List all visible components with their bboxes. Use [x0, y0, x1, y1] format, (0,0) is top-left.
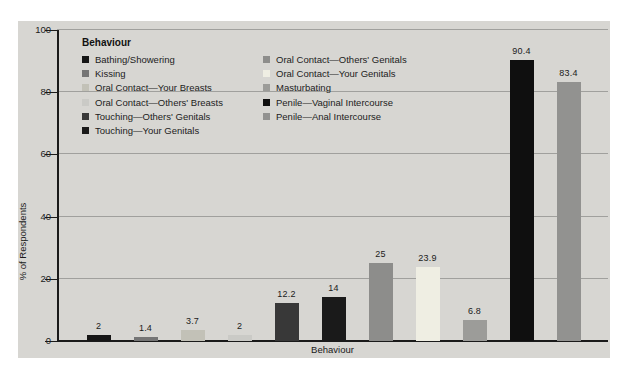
legend-swatch-icon: [82, 70, 89, 77]
legend-item: Penile—Vaginal Intercourse: [263, 95, 407, 109]
bar-value-label: 23.9: [406, 253, 450, 263]
legend-item-label: Masturbating: [276, 82, 331, 93]
legend-item-label: Kissing: [95, 68, 126, 79]
bar-7: 25: [369, 263, 393, 341]
legend-item: Penile—Anal Intercourse: [263, 109, 407, 123]
bar-8: 23.9: [416, 267, 440, 341]
bar-9: 6.8: [463, 320, 487, 341]
legend-item: Bathing/Showering: [82, 52, 223, 66]
legend-item: Masturbating: [263, 81, 407, 95]
legend-item-label: Penile—Anal Intercourse: [276, 111, 381, 122]
legend-swatch-icon: [82, 113, 89, 120]
legend-swatch-icon: [263, 70, 270, 77]
legend-item: Touching—Others' Genitals: [82, 109, 223, 123]
legend-item-label: Touching—Others' Genitals: [95, 111, 210, 122]
legend-item-label: Oral Contact—Others' Breasts: [95, 97, 223, 108]
plot-area: Behaviour Bathing/ShoweringKissingOral C…: [57, 30, 608, 341]
bar-2: 1.4: [134, 337, 158, 341]
bar-value-label: 90.4: [500, 46, 544, 56]
bar-6: 14: [322, 297, 346, 341]
legend-swatch-icon: [82, 56, 89, 63]
bar-value-label: 12.2: [265, 289, 309, 299]
bar-11: 83.4: [557, 82, 581, 341]
bar-value-label: 1.4: [124, 323, 168, 333]
legend-item-label: Bathing/Showering: [95, 54, 175, 65]
legend-title: Behaviour: [82, 37, 407, 48]
bar-value-label: 3.7: [171, 316, 215, 326]
bar-value-label: 25: [359, 249, 403, 259]
legend-column-right: Oral Contact—Others' GenitalsOral Contac…: [263, 52, 407, 138]
legend-swatch-icon: [263, 99, 270, 106]
legend-item: Oral Contact—Others' Genitals: [263, 52, 407, 66]
legend-item-label: Penile—Vaginal Intercourse: [276, 97, 393, 108]
y-tick-mark-60: [45, 154, 57, 155]
legend-item-label: Oral Contact—Your Genitals: [276, 68, 396, 79]
legend-swatch-icon: [263, 56, 270, 63]
legend-item: Touching—Your Genitals: [82, 123, 223, 137]
legend-item: Oral Contact—Your Genitals: [263, 66, 407, 80]
y-axis-line: [57, 30, 59, 341]
bar-value-label: 2: [77, 321, 121, 331]
legend-item-label: Oral Contact—Your Breasts: [95, 82, 212, 93]
bar-value-label: 2: [218, 321, 262, 331]
gridline-100: [57, 29, 608, 30]
legend-item-label: Oral Contact—Others' Genitals: [276, 54, 407, 65]
legend-item: Oral Contact—Others' Breasts: [82, 95, 223, 109]
y-tick-mark-80: [45, 92, 57, 93]
legend-swatch-icon: [263, 113, 270, 120]
legend-swatch-icon: [82, 127, 89, 134]
bar-4: 2: [228, 335, 252, 341]
legend-item: Kissing: [82, 66, 223, 80]
y-tick-mark-20: [45, 279, 57, 280]
bar-value-label: 14: [312, 283, 356, 293]
bar-1: 2: [87, 335, 111, 341]
legend-columns: Bathing/ShoweringKissingOral Contact—You…: [82, 52, 407, 138]
y-tick-mark-40: [45, 217, 57, 218]
bar-value-label: 83.4: [547, 68, 591, 78]
legend-swatch-icon: [82, 99, 89, 106]
legend-swatch-icon: [263, 84, 270, 91]
legend-column-left: Bathing/ShoweringKissingOral Contact—You…: [82, 52, 223, 138]
bar-value-label: 6.8: [453, 306, 497, 316]
legend-item: Oral Contact—Your Breasts: [82, 81, 223, 95]
y-tick-mark-100: [45, 30, 57, 31]
bar-10: 90.4: [510, 60, 534, 341]
legend-swatch-icon: [82, 84, 89, 91]
chart-panel: % of Respondents Behaviour Bathing/Showe…: [18, 21, 610, 358]
y-tick-mark-0: [45, 341, 57, 342]
legend-item-label: Touching—Your Genitals: [95, 125, 199, 136]
legend: Behaviour Bathing/ShoweringKissingOral C…: [82, 37, 407, 138]
bar-5: 12.2: [275, 303, 299, 341]
x-axis-title: Behaviour: [57, 344, 608, 355]
bar-3: 3.7: [181, 330, 205, 342]
